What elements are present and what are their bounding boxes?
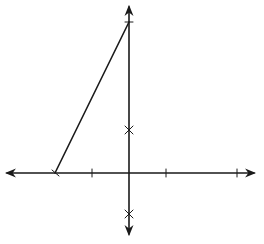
line-segment <box>55 22 129 173</box>
coordinate-diagram <box>0 0 264 244</box>
segment-line <box>55 22 129 173</box>
